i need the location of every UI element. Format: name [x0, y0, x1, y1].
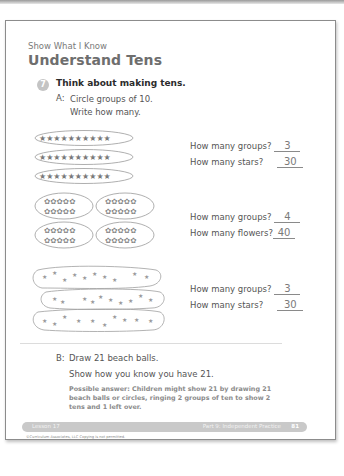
svg-text:★: ★: [52, 295, 57, 302]
set-2-count-answer[interactable]: 40: [273, 227, 295, 239]
svg-text:★: ★: [42, 273, 47, 280]
footer-lesson: Lesson 17: [32, 423, 60, 429]
svg-text:✿✿✿✿✿: ✿✿✿✿✿: [44, 226, 75, 235]
page-title: Understand Tens: [28, 52, 162, 68]
svg-text:★: ★: [112, 276, 117, 283]
set-1-groups-answer[interactable]: 3: [274, 140, 300, 152]
svg-text:★★★★★★★★★★: ★★★★★★★★★★: [39, 172, 111, 181]
copyright-notice: ©Curriculum Associates, LLC Copying is n…: [26, 435, 125, 439]
part-b-line1: Draw 21 beach balls.: [69, 353, 158, 363]
svg-text:★: ★: [92, 270, 97, 277]
svg-text:✿✿✿✿✿: ✿✿✿✿✿: [105, 236, 136, 245]
svg-text:★: ★: [52, 269, 57, 276]
star-groups-set-1: ★★★★★★★★★★ ★★★★★★★★★★ ★★★★★★★★★★: [34, 129, 134, 187]
svg-text:✿✿✿✿✿: ✿✿✿✿✿: [44, 207, 75, 216]
set-1-count-question: How many stars?30: [190, 156, 303, 168]
footer-page-number: 81: [291, 423, 299, 429]
svg-text:★: ★: [90, 317, 95, 324]
set-2-groups-question: How many groups?4: [190, 211, 300, 223]
svg-text:✿✿✿✿✿: ✿✿✿✿✿: [105, 207, 136, 216]
svg-text:★: ★: [148, 296, 153, 303]
set-3-count-answer[interactable]: 30: [277, 299, 303, 311]
question-number-badge: 7: [37, 79, 49, 91]
svg-text:★: ★: [52, 320, 57, 327]
svg-text:✿✿✿✿✿: ✿✿✿✿✿: [44, 236, 75, 245]
svg-text:★: ★: [128, 297, 133, 304]
svg-text:★: ★: [82, 274, 87, 281]
svg-text:★: ★: [148, 317, 153, 324]
svg-text:★: ★: [134, 316, 139, 323]
svg-text:★: ★: [62, 276, 67, 283]
question-prompt: Think about making tens.: [56, 78, 186, 88]
svg-text:✿✿✿✿✿: ✿✿✿✿✿: [105, 226, 136, 235]
svg-text:★: ★: [42, 317, 47, 324]
svg-text:★: ★: [102, 273, 107, 280]
set-1-count-answer[interactable]: 30: [277, 156, 303, 168]
scattered-star-groups-set-3: ★★★★★ ★★★★★ ★★★★★ ★★★★★ ★★★★★ ★★★★★: [32, 264, 168, 334]
svg-text:★: ★: [112, 313, 117, 320]
set-2-groups-answer[interactable]: 4: [274, 211, 300, 223]
outline-flower-icon: ✿✿✿✿✿ ✿✿✿✿✿ ✿✿✿✿✿ ✿✿✿✿✿ ✿✿✿✿✿ ✿✿✿✿✿ ✿✿✿✿…: [44, 197, 136, 245]
part-b-label: B:: [56, 353, 65, 363]
footer-bar: Lesson 17 Part 9: Independent Practice 8…: [22, 422, 307, 432]
section-divider: [20, 343, 282, 344]
svg-text:✿✿✿✿✿: ✿✿✿✿✿: [44, 197, 75, 206]
svg-text:✿✿✿✿✿: ✿✿✿✿✿: [105, 197, 136, 206]
part-b-line2: Show how you know you have 21.: [69, 369, 214, 379]
set-3-groups-answer[interactable]: 3: [274, 283, 300, 295]
part-a-instructions: Circle groups of 10. Write how many.: [70, 93, 153, 119]
svg-text:★: ★: [102, 321, 107, 328]
svg-text:★★★★★★★★★★: ★★★★★★★★★★: [39, 134, 111, 143]
part-a-line2: Write how many.: [70, 106, 153, 119]
svg-text:★: ★: [90, 298, 95, 305]
top-edge-shadow: [0, 0, 344, 4]
svg-text:★: ★: [98, 293, 103, 300]
svg-text:★: ★: [118, 299, 123, 306]
svg-text:★: ★: [138, 292, 143, 299]
svg-text:★: ★: [72, 271, 77, 278]
part-a-line1: Circle groups of 10.: [70, 93, 153, 106]
svg-text:★: ★: [144, 273, 149, 280]
svg-text:★: ★: [108, 296, 113, 303]
section-kicker: Show What I Know: [28, 41, 107, 51]
svg-text:★: ★: [122, 316, 127, 323]
part-a-label: A:: [56, 93, 65, 103]
set-3-count-question: How many stars?30: [190, 299, 303, 311]
flower-groups-set-2: ✿✿✿✿✿ ✿✿✿✿✿ ✿✿✿✿✿ ✿✿✿✿✿ ✿✿✿✿✿ ✿✿✿✿✿ ✿✿✿✿…: [34, 192, 156, 250]
possible-answer-text: Possible answer: Children might show 21 …: [69, 385, 279, 412]
footer-part: Part 9: Independent Practice: [203, 423, 281, 429]
set-3-groups-question: How many groups?3: [190, 283, 300, 295]
svg-text:★: ★: [82, 295, 87, 302]
svg-text:★★★★★★★★★★: ★★★★★★★★★★: [39, 153, 111, 162]
worksheet-page: Show What I Know Understand Tens 7 Think…: [5, 20, 336, 440]
set-2-count-question: How many flowers?40: [190, 227, 295, 239]
svg-text:★: ★: [62, 313, 67, 320]
svg-text:★: ★: [76, 317, 81, 324]
svg-text:★: ★: [60, 298, 65, 305]
set-1-groups-question: How many groups?3: [190, 140, 300, 152]
svg-text:★: ★: [132, 270, 137, 277]
